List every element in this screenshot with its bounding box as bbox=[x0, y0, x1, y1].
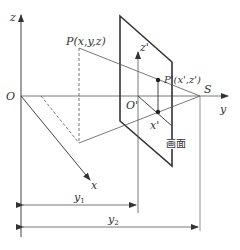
x-prime-label: x' bbox=[150, 120, 159, 131]
y-axis-label: y bbox=[220, 104, 226, 115]
dashed-ground-line bbox=[41, 96, 79, 143]
picture-plane-label: 画面 bbox=[166, 139, 186, 149]
z-prime-label: z' bbox=[140, 42, 149, 53]
station-point-label: S bbox=[204, 84, 212, 95]
perspective-diagram: z O x y P(x,y,z) O' z' x' P'(x',z') S 画面… bbox=[0, 0, 240, 250]
z-axis-label: z bbox=[10, 12, 16, 23]
diagram-lines bbox=[0, 0, 240, 250]
P-prime-dot bbox=[156, 78, 160, 82]
x-axis-label: x bbox=[91, 180, 97, 191]
dim-y1-subscript: 1 bbox=[80, 197, 84, 205]
origin-prime-label: O' bbox=[126, 100, 138, 111]
x-axis bbox=[21, 96, 90, 180]
ray-ground-to-S bbox=[79, 96, 200, 143]
x-prime-dot bbox=[156, 110, 160, 114]
point-P-prime-label: P'(x',z') bbox=[164, 75, 201, 85]
origin-label: O bbox=[6, 91, 15, 102]
dim-y2-label: y2 bbox=[108, 214, 119, 227]
dim-y1-label: y1 bbox=[74, 192, 85, 205]
dim-y2-subscript: 2 bbox=[114, 219, 118, 227]
ray-P-to-S bbox=[79, 48, 200, 96]
point-P-label: P(x,y,z) bbox=[66, 36, 106, 47]
picture-plane bbox=[120, 16, 172, 166]
